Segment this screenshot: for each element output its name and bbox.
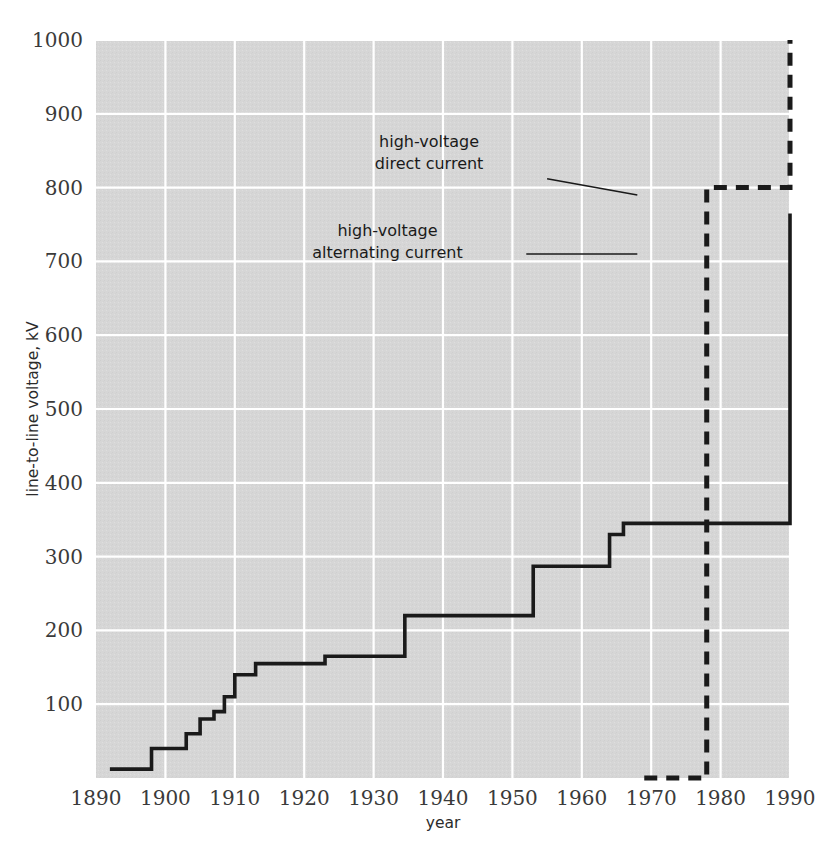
y-tick-label: 600: [45, 323, 83, 347]
x-tick-label: 1890: [71, 786, 122, 810]
x-tick-label: 1920: [279, 786, 330, 810]
x-tick-label: 1980: [695, 786, 746, 810]
y-tick-label: 700: [45, 249, 83, 273]
y-tick-label: 900: [45, 102, 83, 126]
hvdc-label-line: direct current: [375, 154, 484, 173]
y-tick-label: 500: [45, 397, 83, 421]
x-tick-label: 1940: [418, 786, 469, 810]
x-tick-label: 1900: [140, 786, 191, 810]
hvac-label-line: alternating current: [312, 243, 462, 262]
y-tick-label: 100: [45, 692, 83, 716]
x-tick-label: 1970: [626, 786, 677, 810]
x-axis-title: year: [426, 814, 461, 832]
y-tick-label: 400: [45, 471, 83, 495]
hvac-label-line: high-voltage: [337, 221, 437, 240]
hvdc-label-line: high-voltage: [379, 132, 479, 151]
y-tick-label: 800: [45, 176, 83, 200]
x-tick-label: 1960: [556, 786, 607, 810]
figure-container: 1002003004005006007008009001000 18901900…: [0, 0, 838, 849]
x-tick-label: 1950: [487, 786, 538, 810]
y-tick-label: 200: [45, 618, 83, 642]
y-tick-label: 1000: [32, 28, 83, 52]
x-tick-label: 1910: [209, 786, 260, 810]
x-tick-label: 1990: [765, 786, 816, 810]
x-tick-label: 1930: [348, 786, 399, 810]
x-axis-tick-labels: 1890190019101920193019401950196019701980…: [71, 786, 816, 810]
y-axis-title: line-to-line voltage, kV: [24, 321, 42, 497]
y-tick-label: 300: [45, 545, 83, 569]
voltage-history-chart: 1002003004005006007008009001000 18901900…: [0, 0, 838, 849]
